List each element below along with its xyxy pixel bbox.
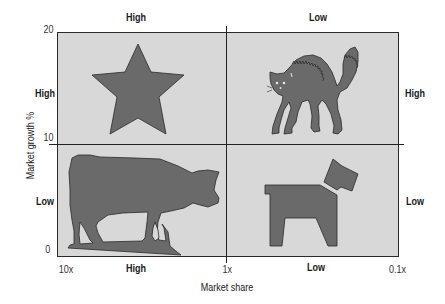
matrix-graphic bbox=[0, 0, 445, 304]
top-label-high-share: High bbox=[126, 12, 146, 23]
left-label-high-growth: High bbox=[35, 88, 55, 99]
y-tick-10: 10 bbox=[44, 132, 54, 143]
x-tick-1x: 1x bbox=[223, 264, 233, 275]
top-label-low-share: Low bbox=[309, 12, 327, 23]
left-label-low-growth: Low bbox=[36, 196, 54, 207]
x-axis-title: Market share bbox=[198, 282, 256, 293]
x-tick-10x: 10x bbox=[59, 264, 74, 275]
y-axis-title: Market growth % bbox=[25, 110, 36, 182]
bottom-label-low-share: Low bbox=[307, 262, 325, 273]
y-tick-20: 20 bbox=[44, 24, 54, 35]
right-label-high-growth: High bbox=[405, 88, 425, 99]
y-tick-0: 0 bbox=[45, 244, 50, 255]
bottom-label-high-share: High bbox=[126, 263, 146, 274]
x-tick-0-1x: 0.1x bbox=[389, 264, 406, 275]
right-label-low-growth: Low bbox=[406, 196, 424, 207]
